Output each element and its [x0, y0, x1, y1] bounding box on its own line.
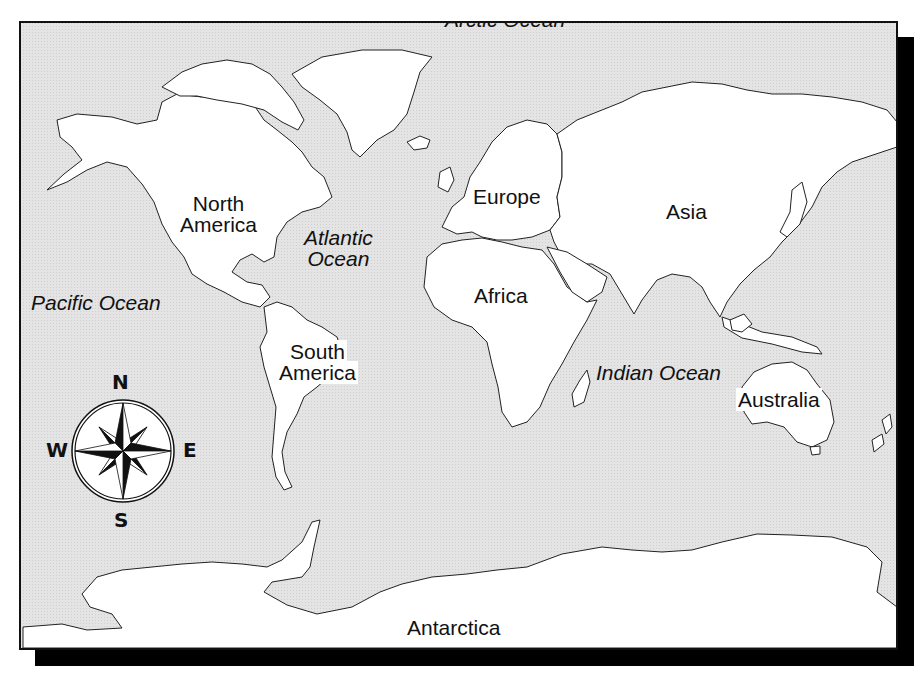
- label-pacific-ocean: Pacific Ocean: [31, 292, 161, 313]
- compass-east-label: E: [183, 438, 197, 462]
- compass-south-label: S: [114, 508, 128, 532]
- label-indian-ocean: Indian Ocean: [596, 362, 721, 383]
- label-asia: Asia: [664, 201, 709, 222]
- label-antarctica: Antarctica: [407, 617, 500, 638]
- label-atlantic-ocean: Atlantic Ocean: [304, 227, 373, 269]
- world-map: North America South America Europe Asia …: [19, 21, 898, 650]
- label-north-america: North America: [178, 193, 259, 235]
- compass-north-label: N: [112, 370, 129, 394]
- label-europe: Europe: [471, 186, 543, 207]
- label-africa: Africa: [472, 285, 530, 306]
- map-landmasses: [21, 23, 896, 648]
- compass-rose: N S W E: [46, 370, 196, 520]
- landmass-tasmania: [810, 446, 820, 455]
- label-australia: Australia: [736, 389, 822, 410]
- compass-west-label: W: [46, 438, 68, 462]
- label-south-america: South America: [277, 341, 358, 383]
- label-arctic-ocean: Arctic Ocean: [445, 21, 565, 30]
- compass-star-icon: [70, 398, 176, 504]
